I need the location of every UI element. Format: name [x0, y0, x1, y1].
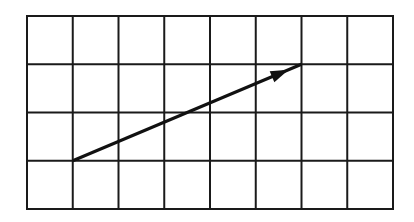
grid-lines [27, 16, 393, 209]
grid-diagram [0, 0, 414, 222]
arrowhead-icon [270, 70, 289, 83]
